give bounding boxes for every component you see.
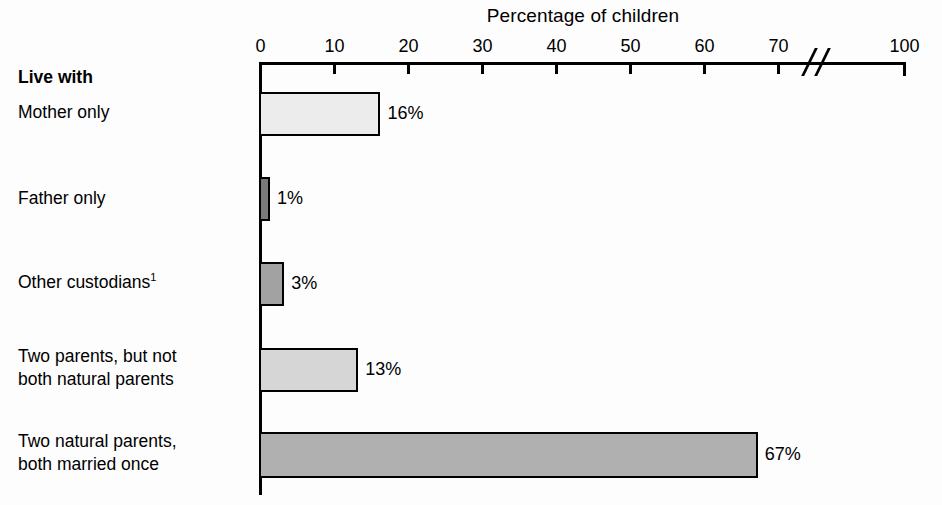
category-label-two-parents-not-both-natural: Two parents, but not both natural parent… — [18, 345, 177, 391]
chart-container: Percentage of children Live with Mother … — [0, 0, 942, 505]
bar-value-label-1: 1% — [277, 188, 303, 209]
axis-break-icon — [799, 46, 839, 78]
x-axis-tick-40 — [555, 62, 558, 74]
chart-title: Percentage of children — [0, 5, 942, 27]
category-group-header: Live with — [18, 66, 93, 89]
bar-value-label-0: 16% — [387, 103, 423, 124]
x-axis-tick-60 — [703, 62, 706, 74]
x-axis-tick-label-10: 10 — [324, 36, 344, 57]
category-label-other-custodians: Other custodians1 — [18, 271, 156, 294]
x-axis-tick-label-70: 70 — [768, 36, 788, 57]
bar-value-label-4: 67% — [765, 444, 801, 465]
x-axis-tick-label-40: 40 — [546, 36, 566, 57]
bar-2 — [259, 262, 284, 306]
bar-0 — [259, 92, 380, 136]
x-axis-tick-label-100: 100 — [889, 36, 919, 57]
x-axis-tick-70 — [777, 62, 780, 74]
x-axis-tick-100 — [903, 62, 906, 76]
x-axis-tick-10 — [333, 62, 336, 74]
x-axis-tick-label-30: 30 — [472, 36, 492, 57]
x-axis-tick-label-0: 0 — [255, 36, 265, 57]
category-label-two-natural-parents-married-once: Two natural parents, both married once — [18, 430, 177, 476]
bar-value-label-2: 3% — [291, 273, 317, 294]
x-axis-tick-50 — [629, 62, 632, 74]
bar-value-label-3: 13% — [365, 359, 401, 380]
bar-1 — [259, 177, 270, 221]
x-axis-tick-label-60: 60 — [694, 36, 714, 57]
bar-4 — [259, 432, 758, 478]
bar-3 — [259, 348, 358, 392]
x-axis-tick-label-50: 50 — [620, 36, 640, 57]
category-label-father-only: Father only — [18, 187, 106, 210]
x-axis-tick-20 — [407, 62, 410, 74]
chart-title-text: Percentage of children — [487, 5, 679, 26]
category-label-mother-only: Mother only — [18, 101, 109, 124]
x-axis-tick-label-20: 20 — [398, 36, 418, 57]
x-axis-tick-30 — [481, 62, 484, 74]
